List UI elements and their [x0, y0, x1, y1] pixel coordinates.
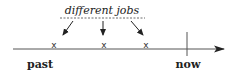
pointer-arrow-1 [63, 21, 73, 35]
job-mark-3: x [143, 40, 149, 50]
timeline-diagram: different jobs x x x past now [0, 0, 234, 74]
pointer-arrow-3 [131, 21, 143, 35]
now-label: now [176, 58, 201, 71]
annotation-label: different jobs [65, 4, 140, 17]
past-label: past [27, 58, 54, 71]
job-mark-1: x [51, 40, 57, 50]
job-mark-2: x [101, 40, 107, 50]
